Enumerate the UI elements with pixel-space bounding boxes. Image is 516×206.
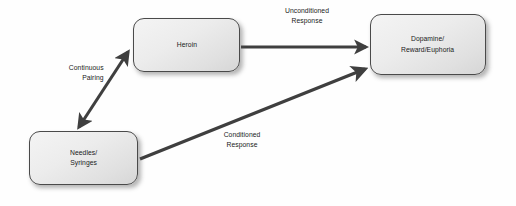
edge-label-conditioned-response: Conditioned Response [202,130,282,151]
edge-label-unconditioned-response: Unconditioned Response [261,6,352,27]
node-heroin: Heroin [133,18,240,72]
node-heroin-label: Heroin [176,40,196,50]
conditioning-diagram: Heroin Dopamine/ Reward/Euphoria Needles… [0,0,516,206]
node-dopamine: Dopamine/ Reward/Euphoria [370,14,486,75]
node-dopamine-label: Dopamine/ Reward/Euphoria [401,34,454,54]
node-needles: Needles/ Syringes [29,131,138,185]
node-needles-label: Needles/ Syringes [70,148,97,168]
edge-label-continuous-pairing: Continuous Pairing [40,63,103,84]
